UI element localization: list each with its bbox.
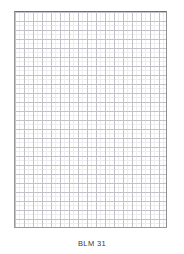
grid-paper-sheet [14,11,167,228]
worksheet-page: BLM 31 [0,0,184,254]
sheet-caption-label: BLM 31 [0,239,184,248]
grid-lines [15,12,166,227]
